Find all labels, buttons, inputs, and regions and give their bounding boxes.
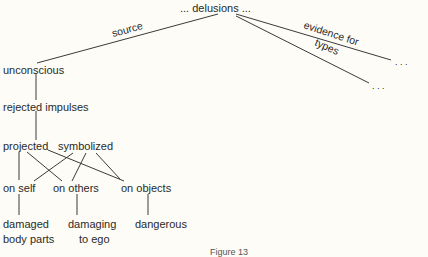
edge-label-source: source <box>110 19 144 39</box>
node-symbolized: symbolized <box>58 140 113 152</box>
node-dangerous: dangerous <box>135 218 187 230</box>
root-node-delusions: ... delusions ... <box>180 2 251 14</box>
node-unconscious: unconscious <box>3 64 64 76</box>
node-on-others: on others <box>53 182 99 194</box>
node-on-self: on self <box>3 182 35 194</box>
figure-caption: Figure 13 <box>210 247 248 257</box>
ellipsis-types: . . . <box>372 80 385 92</box>
node-to-ego: to ego <box>79 233 110 245</box>
node-rejected-impulses: rejected impulses <box>3 101 89 113</box>
ellipsis-evidence: . . . <box>395 56 408 68</box>
node-damaging: damaging <box>68 218 116 230</box>
node-projected: projected <box>3 140 48 152</box>
node-on-objects: on objects <box>121 182 171 194</box>
node-body-parts: body parts <box>3 233 54 245</box>
node-damaged: damaged <box>3 218 49 230</box>
